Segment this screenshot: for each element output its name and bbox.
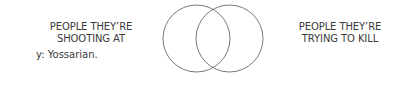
right-set-label: PEOPLE THEY’RE TRYING TO KILL <box>293 21 387 45</box>
left-set-label-line-1: PEOPLE THEY’RE <box>44 21 138 33</box>
footnote: y: Yossarian. <box>36 49 98 61</box>
right-set-label-line-1: PEOPLE THEY’RE <box>293 21 387 33</box>
left-set-label-line-2: SHOOTING AT <box>44 33 138 45</box>
left-set-label: PEOPLE THEY’RE SHOOTING AT <box>44 21 138 45</box>
right-set-label-line-2: TRYING TO KILL <box>293 33 387 45</box>
